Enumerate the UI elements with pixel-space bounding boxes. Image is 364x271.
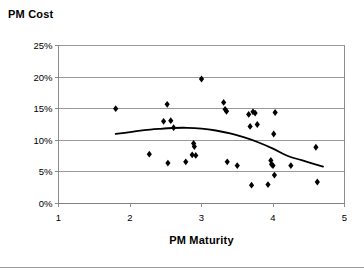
y-tick-label: 25% <box>33 40 53 51</box>
data-point <box>225 158 230 165</box>
x-tick-label: 2 <box>127 212 132 223</box>
x-axis-tick-labels: 12345 <box>56 212 347 223</box>
data-point <box>147 151 152 158</box>
data-point <box>288 162 293 169</box>
chart-container: PM Cost 0%5%10%15%20%25% 12345 PM Maturi… <box>0 0 364 271</box>
gridlines <box>59 46 345 204</box>
data-point <box>221 99 226 106</box>
data-point <box>193 152 198 159</box>
x-tick-label: 3 <box>199 212 204 223</box>
x-tick-label: 5 <box>342 212 347 223</box>
data-point <box>315 179 320 186</box>
data-point <box>165 101 170 108</box>
x-tick-label: 4 <box>270 212 275 223</box>
trendline <box>116 128 323 167</box>
y-tick-marks <box>55 46 59 204</box>
data-point <box>183 158 188 165</box>
y-tick-label: 0% <box>39 198 53 209</box>
y-tick-label: 5% <box>39 166 53 177</box>
data-point <box>235 162 240 169</box>
data-point <box>113 105 118 112</box>
x-tick-label: 1 <box>56 212 61 223</box>
y-axis-tick-labels: 0%5%10%15%20%25% <box>33 40 53 209</box>
bottom-divider <box>0 267 364 268</box>
y-tick-label: 20% <box>33 72 53 83</box>
data-point <box>168 117 173 124</box>
data-point <box>271 131 276 138</box>
data-point <box>248 123 253 130</box>
x-tick-marks <box>59 204 345 208</box>
data-point <box>161 118 166 125</box>
data-point <box>199 76 204 83</box>
y-tick-label: 10% <box>33 135 53 146</box>
data-point <box>255 121 260 128</box>
y-tick-label: 15% <box>33 103 53 114</box>
data-point <box>171 124 176 131</box>
data-point <box>165 160 170 167</box>
scatter-plot: 0%5%10%15%20%25% 12345 PM Maturity <box>0 0 364 271</box>
x-axis-title: PM Maturity <box>169 234 234 246</box>
data-point <box>272 172 277 179</box>
data-point <box>313 144 318 151</box>
data-point <box>273 109 278 116</box>
data-point <box>265 181 270 188</box>
data-point <box>249 182 254 189</box>
